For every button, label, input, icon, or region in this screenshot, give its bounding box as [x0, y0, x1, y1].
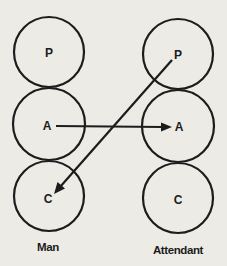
arrowhead-icon: [161, 123, 172, 132]
node-man-child-label: C: [44, 192, 53, 206]
node-man-parent-label: P: [45, 46, 53, 60]
node-attendant-adult-label: A: [175, 120, 184, 134]
column-man: P A C Man: [13, 17, 85, 253]
column-attendant: P A C Attendant: [142, 19, 214, 256]
node-attendant-parent-label: P: [174, 48, 182, 62]
column-label-man: Man: [37, 241, 59, 253]
arrow-line-adult-adult: [56, 126, 163, 127]
column-label-attendant: Attendant: [153, 244, 204, 256]
node-man-adult-label: A: [43, 119, 52, 133]
node-attendant-child-label: C: [174, 193, 183, 207]
arrow-line-parent-child: [60, 60, 172, 187]
transactional-analysis-diagram: P A C Man P A C Attendant: [0, 0, 227, 266]
